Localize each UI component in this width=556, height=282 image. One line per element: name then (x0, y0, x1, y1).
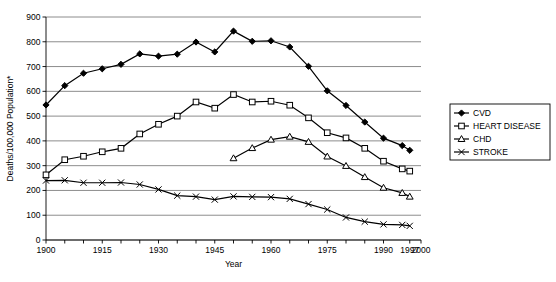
y-tick-label-600: 600 (26, 86, 40, 96)
series-line-cvd (46, 31, 410, 150)
point-cvd-1925 (137, 51, 143, 57)
y-tick-label-900: 900 (26, 12, 40, 22)
point-heart-disease-1905 (62, 157, 68, 163)
point-heart-disease-1925 (137, 131, 143, 137)
cvd-mortality-line-chart: 0100200300400500600700800900Deaths/100,0… (0, 0, 556, 282)
legend-label-chd: CHD (473, 134, 491, 144)
point-heart-disease-1900 (43, 172, 49, 178)
y-tick-label-300: 300 (26, 161, 40, 171)
point-heart-disease-1960 (268, 98, 274, 104)
x-tick-label-2000: 2000 (412, 245, 431, 255)
legend-label-heart-disease: HEART DISEASE (473, 121, 541, 131)
x-tick-label-1900: 1900 (37, 245, 56, 255)
point-heart-disease-1915 (99, 149, 105, 155)
y-tick-label-700: 700 (26, 62, 40, 72)
point-cvd-1995 (399, 142, 405, 148)
point-chd-1965 (286, 133, 293, 139)
point-heart-disease-1940 (193, 99, 199, 105)
y-axis-title: Deaths/100,000 Population* (5, 75, 15, 182)
point-heart-disease-1970 (306, 115, 312, 121)
point-chd-1997 (406, 193, 413, 199)
point-heart-disease-1945 (212, 105, 218, 111)
x-tick-label-1915: 1915 (93, 245, 112, 255)
point-cvd-1997 (407, 147, 413, 153)
point-heart-disease-1975 (324, 130, 330, 136)
point-heart-disease-1955 (249, 99, 255, 105)
legend-label-stroke: STROKE (473, 147, 508, 157)
series-line-heart-disease (46, 95, 410, 175)
point-stroke-1975 (324, 206, 330, 212)
point-heart-disease-1965 (287, 102, 293, 108)
point-heart-disease-1985 (362, 146, 368, 152)
point-cvd-1910 (80, 70, 86, 76)
point-chd-1950 (230, 155, 237, 161)
y-tick-label-400: 400 (26, 136, 40, 146)
x-tick-label-1945: 1945 (205, 245, 224, 255)
point-cvd-1930 (155, 53, 161, 59)
x-tick-label-1990: 1990 (374, 245, 393, 255)
point-heart-disease-1980 (343, 135, 349, 141)
chart-container: 0100200300400500600700800900Deaths/100,0… (0, 0, 556, 282)
point-cvd-1955 (249, 38, 255, 44)
point-heart-disease-1930 (156, 121, 162, 127)
point-chd-1985 (361, 174, 368, 180)
x-tick-label-1975: 1975 (318, 245, 337, 255)
x-axis-title: Year (225, 259, 242, 269)
y-axis: 0100200300400500600700800900Deaths/100,0… (5, 12, 46, 245)
legend-label-cvd: CVD (473, 108, 491, 118)
y-tick-label-800: 800 (26, 37, 40, 47)
point-cvd-1960 (268, 38, 274, 44)
point-heart-disease-1990 (381, 158, 387, 164)
point-heart-disease-1995 (399, 166, 405, 172)
legend-marker-heart-disease (459, 123, 465, 129)
point-cvd-1935 (174, 51, 180, 57)
y-tick-label-0: 0 (36, 235, 41, 245)
x-axis: 190019151930194519601975199019972000Year (37, 240, 431, 269)
point-cvd-1940 (193, 39, 199, 45)
y-tick-label-200: 200 (26, 185, 40, 195)
point-heart-disease-1997 (407, 168, 413, 174)
gridlines (46, 17, 421, 240)
series-chd (230, 133, 413, 199)
series-heart-disease (43, 92, 412, 178)
series-stroke (43, 177, 413, 229)
legend: CVDHEART DISEASECHDSTROKE (450, 104, 550, 160)
x-tick-label-1960: 1960 (262, 245, 281, 255)
y-tick-label-500: 500 (26, 111, 40, 121)
series-cvd (43, 28, 413, 153)
point-heart-disease-1920 (118, 146, 124, 152)
point-chd-1990 (380, 184, 387, 190)
point-heart-disease-1935 (174, 113, 180, 119)
x-tick-label-1930: 1930 (149, 245, 168, 255)
point-heart-disease-1950 (231, 92, 237, 98)
y-tick-label-100: 100 (26, 210, 40, 220)
point-heart-disease-1910 (81, 153, 87, 159)
series-line-stroke (46, 180, 410, 226)
